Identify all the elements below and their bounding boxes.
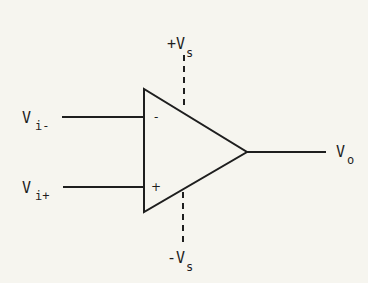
non-inverting-input-label-main: V [22,179,31,197]
inverting-sign: - [154,110,158,124]
op-amp-diagram: - + V i- V i+ V o +V s -V s [0,0,368,283]
negative-supply-label: -V s [167,249,193,274]
output-label-sub: o [347,153,354,167]
inverting-input-label-sub: i- [35,119,49,133]
inverting-input-label-main: V [22,109,31,127]
output-label: V o [336,143,354,167]
positive-supply-label: +V s [167,35,193,60]
negative-supply-label-main: -V [167,249,185,267]
non-inverting-input-label-sub: i+ [35,189,49,203]
negative-supply-label-sub: s [186,260,193,274]
non-inverting-input-label: V i+ [22,179,49,203]
non-inverting-sign: + [151,180,161,194]
inverting-input-label: V i- [22,109,49,133]
positive-supply-label-sub: s [186,46,193,60]
output-label-main: V [336,143,345,161]
positive-supply-label-main: +V [167,35,185,53]
